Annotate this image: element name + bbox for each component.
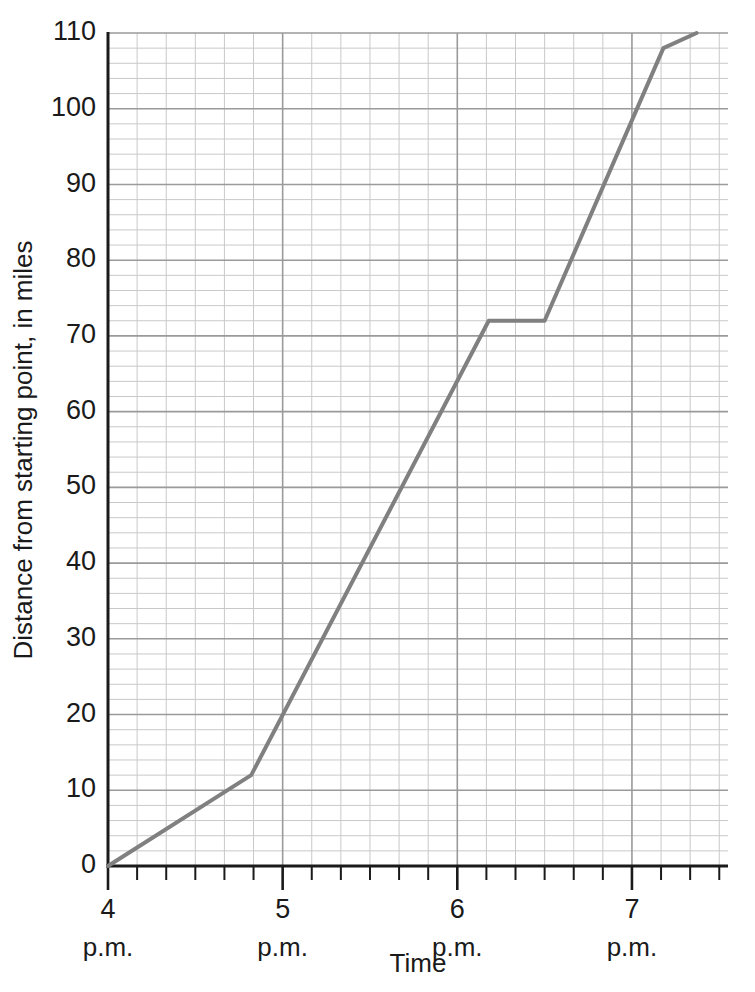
x-axis-tick-label-hour: 4 — [100, 894, 115, 924]
chart-background — [0, 0, 755, 992]
y-axis-title: Distance from starting point, in miles — [8, 240, 38, 659]
y-axis-tick-label: 40 — [66, 546, 96, 576]
y-axis-tick-label: 100 — [51, 92, 96, 122]
x-axis-title: Time — [390, 948, 447, 978]
x-axis-tick-label-period: p.m. — [607, 932, 658, 962]
chart-container: 0102030405060708090100110 4p.m.5p.m.6p.m… — [0, 0, 755, 992]
y-axis-tick-label: 50 — [66, 470, 96, 500]
y-axis-tick-label: 80 — [66, 243, 96, 273]
y-axis-tick-label: 30 — [66, 622, 96, 652]
x-axis-tick-label-hour: 7 — [624, 894, 639, 924]
y-axis-tick-label: 90 — [66, 168, 96, 198]
y-axis-tick-label: 70 — [66, 319, 96, 349]
x-axis-tick-label-hour: 6 — [450, 894, 465, 924]
y-axis-tick-label: 60 — [66, 395, 96, 425]
line-chart: 0102030405060708090100110 4p.m.5p.m.6p.m… — [0, 0, 755, 992]
x-axis-tick-label-period: p.m. — [257, 932, 308, 962]
y-axis-tick-label: 110 — [53, 16, 96, 46]
y-axis-tick-label: 20 — [66, 698, 96, 728]
x-axis-tick-label-period: p.m. — [83, 932, 134, 962]
x-axis-tick-label-hour: 5 — [275, 894, 290, 924]
y-axis-tick-label: 10 — [66, 773, 96, 803]
y-axis-tick-label: 0 — [81, 849, 96, 879]
